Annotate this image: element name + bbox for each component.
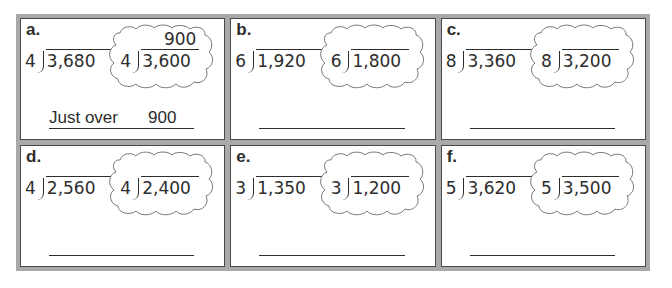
dividend: 3,360 bbox=[466, 49, 532, 71]
estimate-cloud: 4 2,400 bbox=[106, 150, 216, 218]
answer-prefix: Just over bbox=[49, 108, 118, 128]
divisor: 4 bbox=[25, 51, 37, 71]
estimate-dividend: 3,200 bbox=[562, 49, 620, 71]
division-bracket-icon bbox=[247, 51, 254, 73]
dividend: 3,620 bbox=[466, 176, 532, 198]
problem-label: c. bbox=[447, 20, 461, 40]
problem-panel-d: d. 4 2,560 4 2,400 bbox=[20, 145, 225, 267]
division-bracket-icon bbox=[457, 178, 464, 200]
estimate-quotient: 900 bbox=[164, 29, 196, 49]
problem-panel-b: b. 6 1,920 6 1,800 bbox=[230, 18, 435, 140]
answer-field[interactable] bbox=[470, 235, 615, 256]
estimate-division-problem: 5 3,500 bbox=[541, 176, 620, 198]
division-problem: 5 3,620 bbox=[446, 176, 533, 198]
division-bracket-icon bbox=[342, 178, 349, 200]
problem-label: f. bbox=[447, 147, 457, 167]
estimate-divisor: 4 bbox=[120, 178, 132, 198]
problem-panel-f: f. 5 3,620 5 3,500 bbox=[441, 145, 646, 267]
estimate-dividend: 3,600 bbox=[141, 49, 199, 71]
estimate-dividend: 2,400 bbox=[141, 176, 199, 198]
divisor: 8 bbox=[446, 51, 458, 71]
problem-panel-a: a. 4 3,680 900 4 3,600 Just over 900 bbox=[20, 18, 225, 140]
answer-field[interactable] bbox=[259, 108, 404, 129]
divisor: 4 bbox=[25, 178, 37, 198]
estimate-division-problem: 4 2,400 bbox=[120, 176, 199, 198]
answer-field[interactable] bbox=[49, 235, 194, 256]
estimate-cloud: 6 1,800 bbox=[317, 23, 427, 91]
estimate-cloud: 5 3,500 bbox=[527, 150, 637, 218]
answer-value: 900 bbox=[148, 108, 176, 128]
division-problem: 6 1,920 bbox=[235, 49, 322, 71]
answer-field[interactable]: Just over 900 bbox=[49, 108, 194, 129]
estimate-dividend: 3,500 bbox=[562, 176, 620, 198]
problem-label: b. bbox=[236, 20, 251, 40]
dividend: 1,920 bbox=[256, 49, 322, 71]
divisor: 6 bbox=[235, 51, 247, 71]
estimate-divisor: 8 bbox=[541, 51, 553, 71]
division-bracket-icon bbox=[132, 51, 139, 73]
division-bracket-icon bbox=[553, 178, 560, 200]
answer-field[interactable] bbox=[259, 235, 404, 256]
estimate-divisor: 4 bbox=[120, 51, 132, 71]
estimate-division-problem: 3 1,200 bbox=[331, 176, 410, 198]
estimate-divisor: 5 bbox=[541, 178, 553, 198]
estimate-cloud: 8 3,200 bbox=[527, 23, 637, 91]
division-bracket-icon bbox=[553, 51, 560, 73]
estimate-division-problem: 6 1,800 bbox=[331, 49, 410, 71]
estimate-cloud: 3 1,200 bbox=[317, 150, 427, 218]
estimate-cloud: 900 4 3,600 bbox=[106, 23, 216, 91]
dividend: 3,680 bbox=[46, 49, 112, 71]
estimate-division-problem: 8 3,200 bbox=[541, 49, 620, 71]
division-bracket-icon bbox=[132, 178, 139, 200]
estimate-divisor: 6 bbox=[331, 51, 343, 71]
division-bracket-icon bbox=[342, 51, 349, 73]
divisor: 3 bbox=[235, 178, 247, 198]
worksheet-frame: a. 4 3,680 900 4 3,600 Just over 900 b. … bbox=[16, 14, 650, 271]
problem-label: e. bbox=[236, 147, 250, 167]
division-problem: 4 3,680 bbox=[25, 49, 112, 71]
dividend: 2,560 bbox=[46, 176, 112, 198]
division-bracket-icon bbox=[457, 51, 464, 73]
division-bracket-icon bbox=[247, 178, 254, 200]
division-problem: 8 3,360 bbox=[446, 49, 533, 71]
division-bracket-icon bbox=[37, 51, 44, 73]
answer-field[interactable] bbox=[470, 108, 615, 129]
division-bracket-icon bbox=[37, 178, 44, 200]
problem-label: d. bbox=[26, 147, 41, 167]
division-problem: 3 1,350 bbox=[235, 176, 322, 198]
problem-panel-c: c. 8 3,360 8 3,200 bbox=[441, 18, 646, 140]
division-problem: 4 2,560 bbox=[25, 176, 112, 198]
problem-panel-e: e. 3 1,350 3 1,200 bbox=[230, 145, 435, 267]
estimate-divisor: 3 bbox=[331, 178, 343, 198]
estimate-dividend: 1,200 bbox=[351, 176, 409, 198]
estimate-division-problem: 4 3,600 bbox=[120, 49, 199, 71]
estimate-dividend: 1,800 bbox=[351, 49, 409, 71]
problem-label: a. bbox=[26, 20, 40, 40]
divisor: 5 bbox=[446, 178, 458, 198]
dividend: 1,350 bbox=[256, 176, 322, 198]
